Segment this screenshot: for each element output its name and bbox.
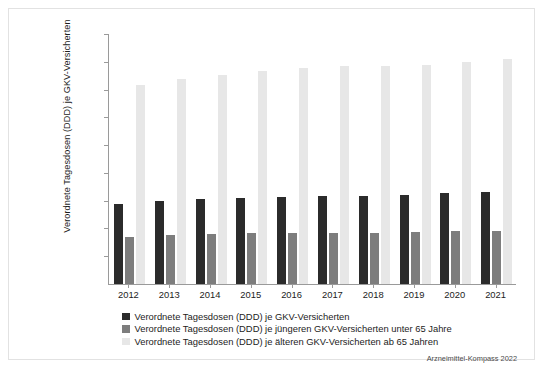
- y-tick-mark: [104, 201, 108, 202]
- y-tick-mark: [104, 62, 108, 63]
- source-note: Arzneimittel-Kompass 2022: [427, 354, 517, 363]
- legend-swatch-icon: [122, 325, 130, 333]
- legend-item[interactable]: Verordnete Tagesdosen (DDD) je jüngeren …: [122, 323, 452, 336]
- bar: [288, 233, 297, 284]
- x-tick-mark: [414, 284, 415, 288]
- bar-group: [440, 34, 471, 284]
- bar: [462, 62, 471, 284]
- bar: [440, 193, 449, 284]
- bar: [411, 232, 420, 284]
- bar: [299, 68, 308, 284]
- bar: [451, 231, 460, 284]
- bar: [207, 234, 216, 284]
- legend-item[interactable]: Verordnete Tagesdosen (DDD) je GKV-Versi…: [122, 310, 452, 323]
- y-axis-title: Verordnete Tagesdosen (DDD) je GKV-Versi…: [62, 1, 72, 251]
- x-tick-mark: [332, 284, 333, 288]
- bar: [422, 65, 431, 284]
- chart-frame: Verordnete Tagesdosen (DDD) je GKV-Versi…: [8, 8, 535, 360]
- legend-label: Verordnete Tagesdosen (DDD) je GKV-Versi…: [135, 311, 350, 322]
- x-tick-label: 2021: [466, 289, 526, 300]
- bar: [381, 66, 390, 284]
- bar: [177, 79, 186, 284]
- y-tick-mark: [104, 34, 108, 35]
- bar-group: [277, 34, 308, 284]
- bar: [236, 198, 245, 284]
- bar: [114, 204, 123, 284]
- legend-item[interactable]: Verordnete Tagesdosen (DDD) je älteren G…: [122, 335, 452, 348]
- x-tick-mark: [210, 284, 211, 288]
- bar: [329, 233, 338, 284]
- legend-swatch-icon: [122, 338, 130, 346]
- bar: [318, 196, 327, 284]
- bar-group: [359, 34, 390, 284]
- chart-legend: Verordnete Tagesdosen (DDD) je GKV-Versi…: [122, 310, 452, 348]
- bar: [155, 201, 164, 284]
- y-axis-line: [108, 34, 109, 285]
- legend-swatch-icon: [122, 313, 130, 321]
- bar: [258, 71, 267, 284]
- x-tick-mark: [251, 284, 252, 288]
- x-tick-mark: [128, 284, 129, 288]
- bar-group: [481, 34, 512, 284]
- bar-group: [400, 34, 431, 284]
- bar: [503, 59, 512, 284]
- chart-figure: Verordnete Tagesdosen (DDD) je GKV-Versi…: [0, 0, 543, 368]
- bar: [136, 85, 145, 284]
- bar: [166, 235, 175, 284]
- bar: [492, 231, 501, 284]
- y-tick-mark: [104, 256, 108, 257]
- plot-area: 1.8001.6001.4001.2001.000800600400200 20…: [108, 34, 516, 285]
- x-tick-mark: [496, 284, 497, 288]
- x-tick-mark: [373, 284, 374, 288]
- bar: [196, 199, 205, 284]
- bar: [359, 196, 368, 284]
- bar-group: [196, 34, 227, 284]
- bar-group: [318, 34, 349, 284]
- y-tick-mark: [104, 145, 108, 146]
- bar: [218, 75, 227, 284]
- y-tick-mark: [104, 90, 108, 91]
- y-tick-mark: [104, 117, 108, 118]
- bar: [370, 233, 379, 284]
- bar-group: [155, 34, 186, 284]
- x-tick-mark: [455, 284, 456, 288]
- bar-group: [236, 34, 267, 284]
- x-tick-mark: [292, 284, 293, 288]
- y-tick-mark: [104, 228, 108, 229]
- legend-label: Verordnete Tagesdosen (DDD) je älteren G…: [135, 336, 439, 347]
- bar: [247, 233, 256, 284]
- bar: [125, 237, 134, 284]
- bar: [277, 197, 286, 284]
- legend-label: Verordnete Tagesdosen (DDD) je jüngeren …: [135, 323, 452, 334]
- bar: [400, 195, 409, 284]
- x-tick-mark: [169, 284, 170, 288]
- y-tick-mark: [104, 173, 108, 174]
- bar: [481, 192, 490, 284]
- bar: [340, 66, 349, 284]
- bar-group: [114, 34, 145, 284]
